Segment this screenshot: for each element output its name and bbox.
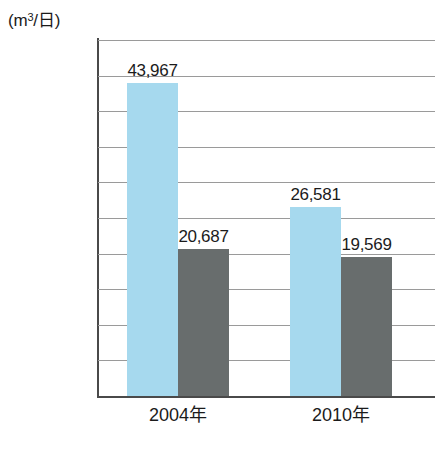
gridline [98,40,435,41]
x-axis-category-label: 2010年 [270,404,412,426]
y-axis-unit-suffix: /日) [33,11,60,30]
x-axis-baseline [98,396,435,398]
bar-value-label: 43,967 [115,62,190,79]
y-axis-unit-prefix: (m [8,11,27,30]
x-axis-category-label: 2004年 [107,404,249,426]
bar-value-label: 26,581 [278,186,353,203]
plot-area [98,40,435,396]
bar-2010年-series-gray [341,257,392,396]
bar-2004年-series-gray [178,249,229,396]
y-axis-unit-label: (m3/日) [8,7,60,31]
bar-chart-figure: (m3/日) 50,00045,00040,00035,00030,00025,… [0,0,442,465]
bar-value-label: 19,569 [329,236,404,253]
bar-value-label: 20,687 [166,228,241,245]
